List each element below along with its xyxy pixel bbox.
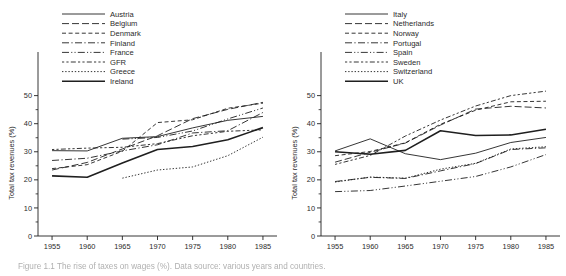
- legend-label-gfr: GFR: [110, 58, 127, 67]
- svg-text:50: 50: [24, 91, 32, 100]
- legend-label-austria: Austria: [110, 10, 134, 19]
- svg-text:1980: 1980: [503, 242, 519, 251]
- svg-text:1975: 1975: [184, 242, 200, 251]
- chart-panel-left: 010203040501955196019651970197519801985T…: [0, 0, 283, 260]
- legend-label-denmark: Denmark: [110, 29, 141, 38]
- series-line-spain: [335, 155, 546, 192]
- legend: AustriaBelgiumDenmarkFinlandFranceGFRGre…: [62, 10, 141, 86]
- svg-text:10: 10: [307, 204, 315, 213]
- series-line-austria: [52, 116, 263, 151]
- legend-label-finland: Finland: [110, 39, 135, 48]
- legend-label-portugal: Portugal: [393, 39, 422, 48]
- svg-text:20: 20: [24, 175, 32, 184]
- svg-text:1965: 1965: [114, 242, 130, 251]
- svg-text:40: 40: [307, 119, 315, 128]
- svg-text:30: 30: [307, 147, 315, 156]
- legend-label-greece: Greece: [110, 67, 135, 76]
- line-chart-right: 010203040501955196019651970197519801985T…: [283, 0, 566, 260]
- series-line-gfr: [52, 130, 263, 150]
- svg-text:1970: 1970: [149, 242, 165, 251]
- legend-label-ireland: Ireland: [110, 77, 133, 86]
- legend-label-switzerland: Switzerland: [393, 67, 432, 76]
- line-chart-left: 010203040501955196019651970197519801985T…: [0, 0, 283, 260]
- svg-text:50: 50: [307, 91, 315, 100]
- svg-text:1955: 1955: [327, 242, 343, 251]
- legend-label-uk: UK: [393, 77, 404, 86]
- svg-text:40: 40: [24, 119, 32, 128]
- svg-text:1985: 1985: [255, 242, 271, 251]
- legend-label-belgium: Belgium: [110, 19, 137, 28]
- svg-text:1955: 1955: [44, 242, 60, 251]
- legend-label-france: France: [110, 48, 134, 57]
- series-line-switzerland: [335, 147, 546, 182]
- legend-label-spain: Spain: [393, 48, 412, 57]
- svg-text:1970: 1970: [432, 242, 448, 251]
- figure-caption-band: Figure 1.1 The rise of taxes on wages (%…: [0, 258, 566, 276]
- legend: ItalyNetherlandsNorwayPortugalSpainSwede…: [345, 10, 434, 86]
- svg-text:1985: 1985: [538, 242, 554, 251]
- figure-caption: Figure 1.1 The rise of taxes on wages (%…: [0, 258, 566, 272]
- svg-text:0: 0: [28, 232, 32, 241]
- series-line-belgium: [52, 102, 263, 170]
- svg-text:Total tax revenues (%): Total tax revenues (%): [290, 126, 299, 200]
- svg-text:0: 0: [311, 232, 315, 241]
- series-line-greece: [122, 137, 263, 178]
- svg-text:30: 30: [24, 147, 32, 156]
- svg-text:1960: 1960: [79, 242, 95, 251]
- svg-text:Total tax revenues (%): Total tax revenues (%): [7, 126, 16, 200]
- svg-text:20: 20: [307, 175, 315, 184]
- legend-label-norway: Norway: [393, 29, 419, 38]
- legend-label-italy: Italy: [393, 10, 407, 19]
- svg-text:1965: 1965: [397, 242, 413, 251]
- svg-text:1975: 1975: [467, 242, 483, 251]
- svg-text:1980: 1980: [220, 242, 236, 251]
- svg-text:1960: 1960: [362, 242, 378, 251]
- legend-label-netherlands: Netherlands: [393, 19, 434, 28]
- series-line-norway: [335, 101, 546, 155]
- figure-container: 010203040501955196019651970197519801985T…: [0, 0, 566, 276]
- svg-text:10: 10: [24, 204, 32, 213]
- legend-label-sweden: Sweden: [393, 58, 420, 67]
- chart-panel-right: 010203040501955196019651970197519801985T…: [283, 0, 566, 260]
